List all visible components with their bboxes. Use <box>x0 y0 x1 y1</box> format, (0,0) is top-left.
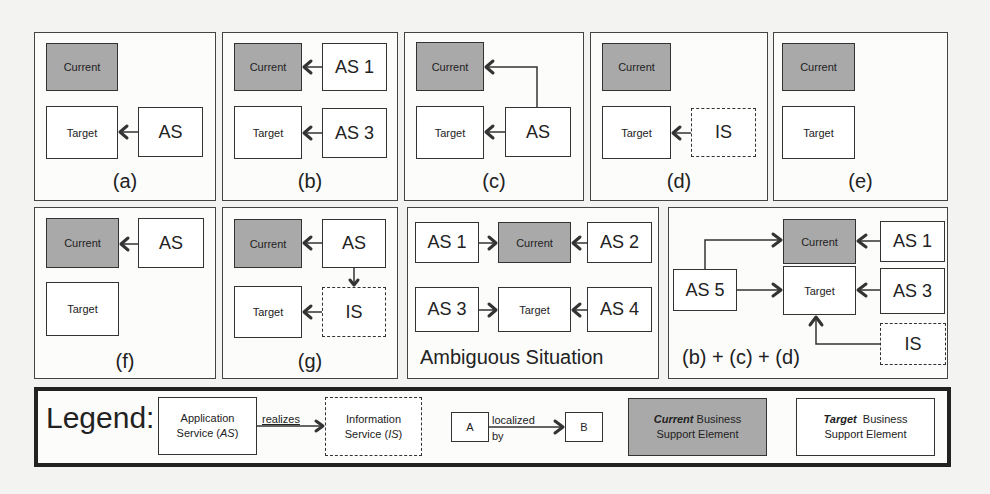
application-service: AS <box>322 219 386 268</box>
target-element: Target <box>46 282 119 336</box>
application-service-3: AS 3 <box>415 287 479 332</box>
panel-label: (d) <box>590 170 768 193</box>
legend-info-line1: Information <box>346 412 401 427</box>
panel-label: (a) <box>34 170 216 193</box>
information-service: IS <box>880 323 946 365</box>
legend-target-line2: Support Element <box>825 427 907 442</box>
legend-by-label: by <box>492 430 504 442</box>
panel-label: (f) <box>34 350 216 373</box>
information-service: IS <box>322 287 386 337</box>
application-service: AS <box>138 107 203 157</box>
legend-information-service: Information Service (IS) <box>325 397 422 456</box>
legend-box-a: A <box>451 412 489 442</box>
target-element: Target <box>498 287 571 332</box>
target-element: Target <box>234 106 302 159</box>
application-service-5: AS 5 <box>673 269 737 311</box>
legend-current-line1: Current Business <box>654 412 741 427</box>
information-service: IS <box>691 108 756 157</box>
current-element: Current <box>782 43 855 91</box>
application-service-3: AS 3 <box>322 108 387 158</box>
target-element: Target <box>602 106 671 159</box>
legend-app-line1: Application <box>181 411 235 426</box>
target-element: Target <box>46 106 118 159</box>
legend-realizes-label: realizes <box>262 413 300 425</box>
panel-label: (g) <box>222 350 398 373</box>
panel-label: (c) <box>404 170 584 193</box>
legend-title: Legend: <box>46 401 154 435</box>
legend-box-b: B <box>565 412 603 442</box>
legend-app-line2: Service (AS) <box>177 426 239 441</box>
application-service-3: AS 3 <box>880 268 945 314</box>
current-element: Current <box>234 219 302 268</box>
legend-target-line1: Target Business <box>824 412 908 427</box>
target-element: Target <box>416 106 484 159</box>
panel-label: (b) + (c) + (d) <box>682 346 800 369</box>
target-element: Target <box>783 266 856 315</box>
panel-label: (e) <box>773 170 948 193</box>
current-element: Current <box>46 43 118 91</box>
application-service: AS <box>505 107 571 157</box>
legend-localized-label: localized <box>492 414 535 426</box>
legend-current-line2: Support Element <box>657 427 739 442</box>
current-element: Current <box>498 222 571 263</box>
application-service: AS <box>138 218 204 268</box>
application-service-1: AS 1 <box>322 43 387 91</box>
panel-label: (b) <box>222 170 398 193</box>
current-element: Current <box>234 43 302 91</box>
current-element: Current <box>783 219 856 264</box>
application-service-4: AS 4 <box>587 287 652 332</box>
current-element: Current <box>46 218 119 268</box>
legend-current-element: Current Business Support Element <box>628 398 767 456</box>
current-element: Current <box>602 43 671 91</box>
application-service-1: AS 1 <box>880 221 945 262</box>
application-service-1: AS 1 <box>415 222 479 263</box>
application-service-2: AS 2 <box>587 222 652 263</box>
legend-application-service: Application Service (AS) <box>158 397 257 455</box>
target-element: Target <box>782 106 855 159</box>
target-element: Target <box>234 286 302 338</box>
legend-info-line2: Service (IS) <box>345 427 402 442</box>
panel-label: Ambiguous Situation <box>420 346 603 369</box>
legend-target-element: Target Business Support Element <box>796 398 935 456</box>
current-element: Current <box>416 42 484 91</box>
